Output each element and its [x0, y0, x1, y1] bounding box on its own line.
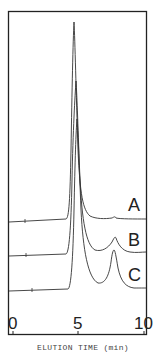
trace-b — [9, 81, 146, 256]
trace-label-b: B — [128, 230, 140, 251]
x-tick-10: 10 — [134, 314, 153, 334]
plot-frame — [9, 12, 147, 335]
x-axis-label: ELUTION TIME (min) — [18, 343, 148, 352]
x-tick-0: 0 — [8, 314, 17, 334]
trace-label-c: C — [128, 265, 141, 286]
chromatogram-plot — [0, 0, 161, 359]
x-tick-5: 5 — [73, 314, 82, 334]
trace-label-a: A — [128, 195, 140, 216]
